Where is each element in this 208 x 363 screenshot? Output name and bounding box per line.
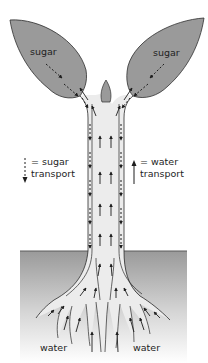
legend-sugar-line1: = sugar — [31, 156, 75, 168]
leaf-left — [10, 20, 87, 98]
legend-sugar-line2: transport — [31, 168, 75, 180]
solid-up-arrow-icon — [131, 160, 137, 186]
label-sugar-left-leaf: sugar — [30, 46, 57, 57]
legend-water-line2: transport — [140, 168, 184, 180]
label-water-right-root: water — [133, 342, 160, 353]
legend-sugar: = sugar transport — [22, 156, 75, 180]
label-water-left-root: water — [40, 342, 67, 353]
legend-water-line1: = water — [140, 156, 184, 168]
legend-water: = water transport — [131, 156, 184, 180]
dashed-down-arrow-icon — [22, 158, 28, 184]
apical-bud — [101, 80, 111, 102]
label-sugar-right-leaf: sugar — [153, 47, 180, 58]
